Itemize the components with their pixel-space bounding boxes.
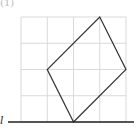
- grid-diagram: [0, 0, 136, 132]
- grid-lines: [21, 17, 126, 122]
